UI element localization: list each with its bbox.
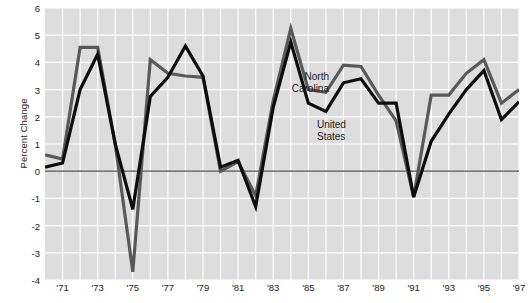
- x-axis-tick-label: '83: [267, 282, 279, 293]
- x-axis-tick-labels: '71'73'75'77'79'81'83'85'87'89'91'93'95'…: [0, 282, 529, 298]
- y-axis-tick-label: 1: [18, 139, 40, 150]
- x-axis-tick-label: '89: [372, 282, 384, 293]
- series-label-united-states-line1: United: [317, 119, 346, 130]
- y-axis-tick-label: 2: [18, 111, 40, 122]
- y-axis-tick-label: -3: [18, 247, 40, 258]
- series-label-united-states-line2: States: [317, 131, 345, 142]
- x-axis-tick-label: '79: [197, 282, 209, 293]
- series-label-united-states: United States: [317, 119, 377, 142]
- x-axis-tick-label: '91: [407, 282, 419, 293]
- y-axis-tick-label: 0: [18, 166, 40, 177]
- x-axis-tick-label: '77: [162, 282, 174, 293]
- x-axis-tick-label: '95: [478, 282, 490, 293]
- y-axis-tick-label: 6: [18, 3, 40, 14]
- x-axis-tick-label: '87: [337, 282, 349, 293]
- y-axis-tick-label: 5: [18, 30, 40, 41]
- series-label-north-carolina-line1: North: [305, 71, 329, 82]
- x-axis-tick-label: '73: [91, 282, 103, 293]
- y-axis-tick-label: 4: [18, 57, 40, 68]
- y-axis-tick-label: -2: [18, 220, 40, 231]
- series-label-north-carolina: North Carolina: [269, 71, 329, 94]
- x-axis-tick-label: '81: [232, 282, 244, 293]
- plot-area: North Carolina United States: [45, 8, 519, 280]
- line-chart: Percent Change 6543210-1-2-3-4 North Car…: [0, 0, 529, 303]
- series-lines: [45, 28, 519, 271]
- x-axis-tick-label: '71: [56, 282, 68, 293]
- x-axis-tick-label: '93: [443, 282, 455, 293]
- x-axis-tick-label: '97: [513, 282, 525, 293]
- y-axis-tick-label: 3: [18, 84, 40, 95]
- x-axis-tick-label: '85: [302, 282, 314, 293]
- x-axis-tick-label: '75: [127, 282, 139, 293]
- plot-svg: [45, 8, 519, 280]
- y-axis-tick-label: -1: [18, 193, 40, 204]
- series-label-north-carolina-line2: Carolina: [292, 83, 329, 94]
- y-axis-tick-labels: 6543210-1-2-3-4: [18, 0, 40, 303]
